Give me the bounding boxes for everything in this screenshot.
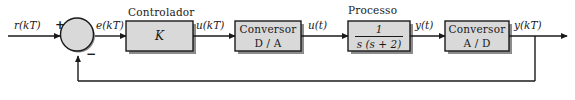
block-body-processo-numerator: 1 [348, 24, 410, 35]
signal-label-error: e(kT) [96, 20, 124, 31]
block-caption-processo: Processo [348, 5, 397, 16]
block-body-conversor-da-line2: D / A [235, 38, 301, 49]
block-diagram: Controlador Processo r(kT) e(kT) u(kT) u… [0, 0, 575, 100]
block-body-conversor-ad-line2: A / D [445, 38, 509, 49]
block-body-processo-denominator: s (s + 2) [348, 39, 410, 50]
signal-label-output-continuous: y(t) [415, 20, 433, 31]
signal-label-reference: r(kT) [14, 20, 41, 31]
block-caption-controlador: Controlador [128, 7, 195, 18]
signal-label-control-continuous: u(t) [308, 20, 327, 31]
summing-junction-plus-sign: + [55, 19, 65, 31]
block-body-conversor-da-line1: Conversor [235, 24, 301, 35]
summing-junction-minus-sign: − [86, 48, 96, 60]
block-body-controlador: K [126, 30, 193, 42]
signal-label-output-discrete: y(kT) [514, 20, 542, 31]
block-body-conversor-ad-line1: Conversor [445, 24, 509, 35]
signal-label-control-discrete: u(kT) [196, 20, 224, 31]
